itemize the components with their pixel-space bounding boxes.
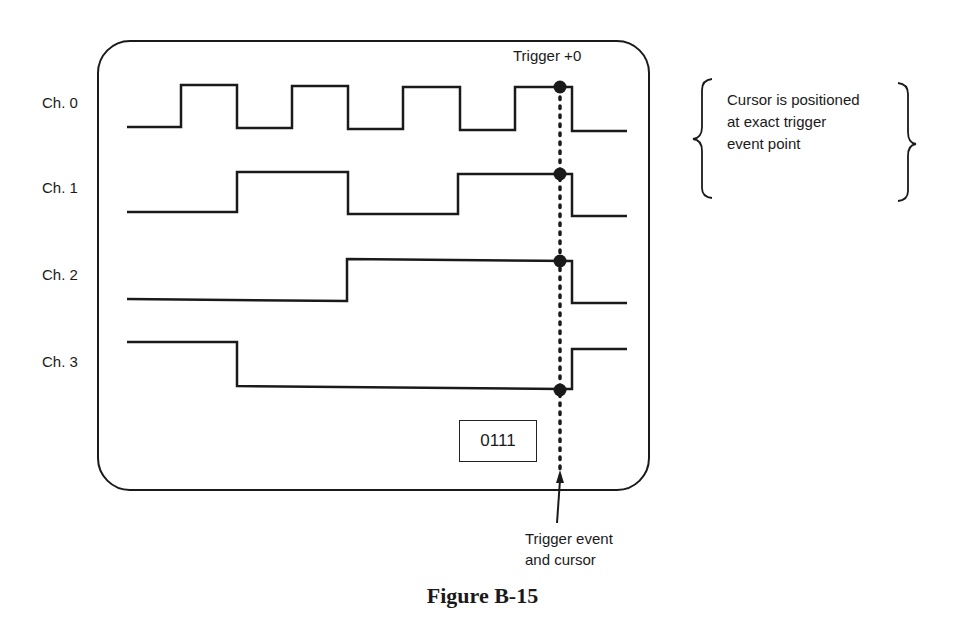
label-line: and cursor: [525, 549, 613, 570]
cursor-pointer-arrow-shaft: [557, 480, 560, 523]
ch0-cursor-dot: [554, 81, 567, 94]
trigger-offset-label: Trigger +0: [513, 47, 581, 64]
right-brace-icon: [898, 83, 916, 201]
arrow-head-icon: [556, 470, 564, 483]
figure-caption: Figure B-15: [0, 583, 965, 609]
cursor-callout-note: Cursor is positioned at exact trigger ev…: [727, 89, 860, 155]
ch3-cursor-dot: [554, 384, 567, 397]
label-line: Trigger event: [525, 528, 613, 549]
ch1-cursor-dot: [554, 168, 567, 181]
note-line: event point: [727, 133, 860, 155]
ch2-cursor-dot: [554, 255, 567, 268]
state-readout-value: 0111: [480, 431, 515, 451]
ch0-waveform: [127, 85, 627, 131]
note-line: at exact trigger: [727, 111, 860, 133]
ch3-label: Ch. 3: [42, 353, 78, 370]
state-readout-box: 0111: [459, 420, 537, 462]
trigger-event-label: Trigger event and cursor: [525, 528, 613, 570]
ch1-label: Ch. 1: [42, 179, 78, 196]
ch2-waveform: [127, 259, 627, 303]
left-brace-icon: [693, 79, 712, 198]
ch2-label: Ch. 2: [42, 266, 78, 283]
ch1-waveform: [127, 172, 627, 216]
ch3-waveform: [127, 342, 627, 389]
ch0-label: Ch. 0: [42, 94, 78, 111]
note-line: Cursor is positioned: [727, 89, 860, 111]
